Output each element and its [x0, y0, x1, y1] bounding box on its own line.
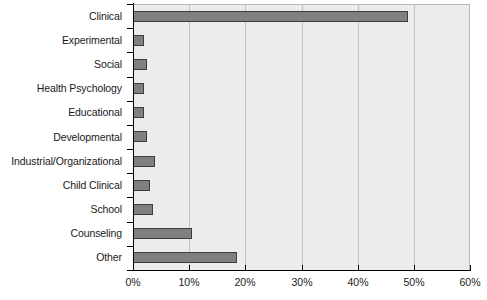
y-axis-tick-mark	[127, 125, 133, 126]
bar	[133, 11, 408, 22]
y-axis-tick-label-text: Experimental	[62, 35, 122, 46]
x-axis-tick-mark	[133, 265, 134, 271]
bar-row	[133, 173, 150, 197]
y-axis-tick-label-text: Child Clinical	[63, 180, 122, 191]
y-axis-tick-mark	[127, 4, 133, 5]
bar	[133, 228, 192, 239]
bar-row	[133, 246, 237, 270]
bar-row	[133, 222, 192, 246]
bar	[133, 156, 155, 167]
bar-row	[133, 77, 144, 101]
y-axis-tick-label-text: Educational	[68, 107, 122, 118]
bar	[133, 204, 153, 215]
y-axis-tick-label: Child Clinical	[0, 173, 127, 197]
x-axis-tick-mark	[245, 265, 246, 271]
y-axis-tick-label-text: Counseling	[70, 228, 122, 239]
bar	[133, 83, 144, 94]
x-axis-tick-mark	[358, 265, 359, 271]
y-axis-tick-mark	[127, 28, 133, 29]
bar-row	[133, 197, 153, 221]
y-axis-tick-label: Developmental	[0, 125, 127, 149]
bar	[133, 252, 237, 263]
y-axis-tick-mark	[127, 246, 133, 247]
y-axis-tick-label-text: Other	[96, 252, 122, 263]
x-axis-tick-label: 30%	[280, 276, 324, 288]
bar	[133, 107, 144, 118]
bar-row	[133, 101, 144, 125]
y-axis-tick-mark	[127, 77, 133, 78]
y-axis-tick-mark	[127, 222, 133, 223]
y-axis-tick-label: Clinical	[0, 4, 127, 28]
bar-chart-figure: ClinicalExperimentalSocialHealth Psychol…	[0, 0, 487, 300]
bar-row	[133, 125, 147, 149]
y-axis-tick-label-text: School	[90, 204, 122, 215]
x-axis-tick-mark	[302, 265, 303, 271]
x-axis-tick-label: 60%	[448, 276, 487, 288]
bar	[133, 35, 144, 46]
y-axis-tick-mark	[127, 52, 133, 53]
x-axis-tick-mark	[470, 265, 471, 271]
y-axis-tick-label: Educational	[0, 101, 127, 125]
y-axis-tick-label: Experimental	[0, 28, 127, 52]
y-axis-tick-label: Social	[0, 52, 127, 76]
x-axis-tick-mark	[414, 265, 415, 271]
y-axis-tick-label-text: Clinical	[89, 11, 122, 22]
y-axis-tick-label-text: Industrial/Organizational	[11, 156, 122, 167]
y-axis-tick-mark	[127, 149, 133, 150]
y-axis-tick-label: Health Psychology	[0, 77, 127, 101]
bar-row	[133, 52, 147, 76]
y-axis-tick-label-text: Developmental	[53, 132, 122, 143]
x-axis-tick-label: 20%	[223, 276, 267, 288]
x-axis-tick-label: 0%	[111, 276, 155, 288]
bar-row	[133, 149, 155, 173]
bar	[133, 59, 147, 70]
y-axis-tick-label-text: Social	[94, 59, 122, 70]
bar-row	[133, 4, 408, 28]
y-axis-tick-label: Industrial/Organizational	[0, 149, 127, 173]
y-axis-category-labels: ClinicalExperimentalSocialHealth Psychol…	[0, 4, 127, 270]
y-axis-tick-mark	[127, 197, 133, 198]
bar-series	[133, 4, 470, 270]
x-axis-tick-label: 40%	[336, 276, 380, 288]
y-axis-line	[133, 3, 134, 271]
y-axis-tick-label-text: Health Psychology	[37, 83, 122, 94]
x-axis-tick-mark	[189, 265, 190, 271]
bar	[133, 180, 150, 191]
y-axis-tick-label: Counseling	[0, 222, 127, 246]
bar-row	[133, 28, 144, 52]
y-axis-tick-label: School	[0, 198, 127, 222]
x-axis-tick-label: 10%	[167, 276, 211, 288]
y-axis-tick-label: Other	[0, 246, 127, 270]
y-axis-tick-mark	[127, 101, 133, 102]
y-axis-tick-mark	[127, 173, 133, 174]
bar	[133, 131, 147, 142]
x-axis-tick-label: 50%	[392, 276, 436, 288]
